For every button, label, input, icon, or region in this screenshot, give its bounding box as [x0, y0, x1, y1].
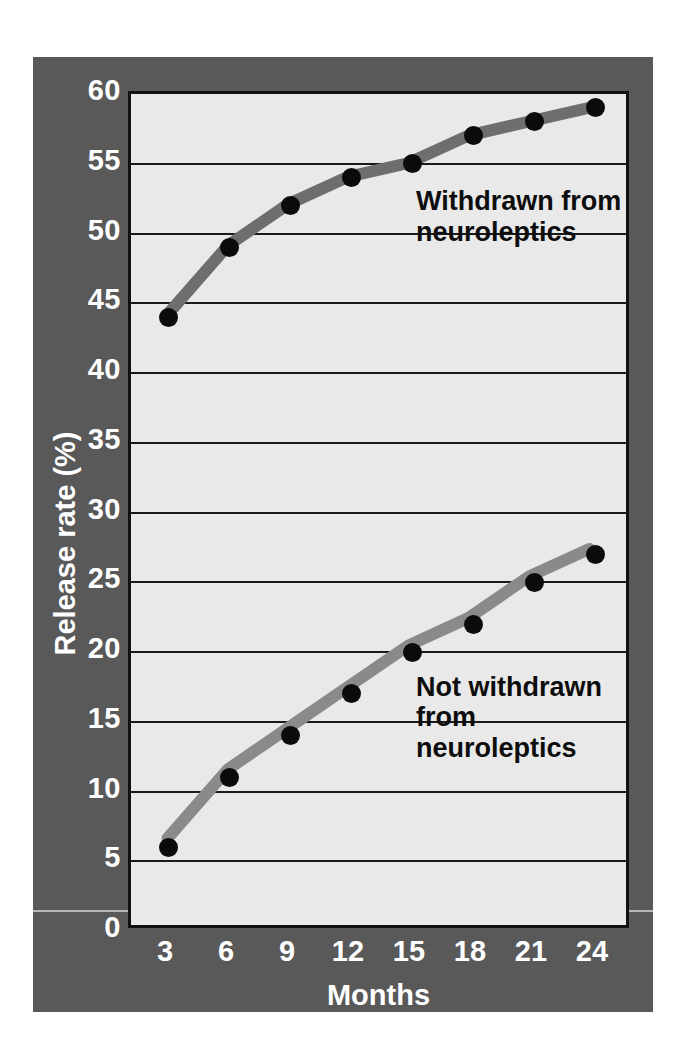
- x-axis-tick-label: 9: [257, 937, 317, 966]
- y-axis-tick-label: 55: [61, 146, 121, 175]
- series-annotation-label: Withdrawn from neuroleptics: [416, 186, 621, 248]
- y-axis-tick-label: 0: [61, 913, 121, 942]
- x-axis-tick-label: 15: [379, 937, 439, 966]
- y-axis-tick-label: 5: [61, 843, 121, 872]
- chart-figure-panel: Release rate (%) 05101520253035404550556…: [33, 57, 653, 1012]
- y-axis-tick-label: 20: [61, 634, 121, 663]
- x-axis-tick-label: 6: [196, 937, 256, 966]
- y-axis-tick-label: 25: [61, 564, 121, 593]
- y-axis-tick-label: 50: [61, 216, 121, 245]
- x-axis-title: Months: [128, 979, 629, 1012]
- series-annotations-layer: Withdrawn from neurolepticsNot withdrawn…: [131, 94, 626, 925]
- x-axis-tick-label: 3: [135, 937, 195, 966]
- y-axis-tick-label: 60: [61, 76, 121, 105]
- y-axis-tick-label: 35: [61, 425, 121, 454]
- plot-area: Withdrawn from neurolepticsNot withdrawn…: [128, 91, 629, 928]
- y-axis-tick-label: 15: [61, 704, 121, 733]
- x-axis-tick-label: 21: [501, 937, 561, 966]
- y-axis-tick-labels: 051015202530354045505560: [43, 57, 121, 1012]
- x-axis-tick-label: 24: [562, 937, 622, 966]
- y-axis-tick-label: 40: [61, 355, 121, 384]
- series-annotation-label: Not withdrawn from neuroleptics: [416, 672, 626, 764]
- x-axis-tick-label: 12: [318, 937, 378, 966]
- y-axis-tick-label: 30: [61, 495, 121, 524]
- y-axis-tick-label: 10: [61, 774, 121, 803]
- x-axis-tick-label: 18: [440, 937, 500, 966]
- y-axis-tick-label: 45: [61, 285, 121, 314]
